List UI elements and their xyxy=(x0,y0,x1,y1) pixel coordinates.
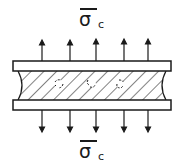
top-sigma-symbol: σ xyxy=(79,10,91,29)
bottom-plate xyxy=(13,100,171,110)
top-stress-arrows xyxy=(40,39,151,61)
bottom-stress-label: σ c xyxy=(78,138,108,166)
arrow-up-icon xyxy=(94,39,99,61)
arrow-down-icon xyxy=(94,110,99,132)
arrow-up-icon xyxy=(122,39,127,61)
arrow-up-icon xyxy=(40,40,45,61)
bottom-stress-arrows xyxy=(40,110,151,132)
bottom-sigma-subscript: c xyxy=(98,151,104,162)
void-3 xyxy=(115,80,125,88)
arrow-up-icon xyxy=(68,40,73,61)
arrow-down-icon xyxy=(40,110,45,132)
top-sigma-subscript: c xyxy=(98,19,104,30)
arrow-down-icon xyxy=(146,110,151,132)
top-plate xyxy=(13,61,171,71)
arrow-up-icon xyxy=(146,39,151,61)
arrow-down-icon xyxy=(68,110,73,132)
arrow-down-icon xyxy=(122,110,127,132)
bottom-sigma-symbol: σ xyxy=(79,142,91,161)
void-2 xyxy=(86,80,96,88)
top-stress-label: σ c xyxy=(78,6,108,32)
